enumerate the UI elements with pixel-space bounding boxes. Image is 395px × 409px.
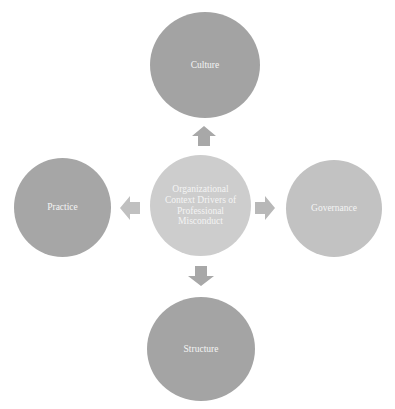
structure-node: Structure — [147, 297, 255, 401]
practice-label: Practice — [47, 202, 78, 213]
center-label: Organizational Context Drivers of Profes… — [160, 184, 241, 228]
practice-node: Practice — [14, 158, 111, 257]
culture-node: Culture — [150, 12, 260, 118]
arrow-up-icon — [192, 126, 216, 146]
arrow-right-icon — [255, 196, 275, 220]
arrow-down-icon — [188, 266, 214, 286]
center-node: Organizational Context Drivers of Profes… — [150, 155, 251, 256]
culture-label: Culture — [191, 60, 220, 71]
structure-label: Structure — [184, 344, 219, 355]
governance-node: Governance — [286, 160, 382, 257]
governance-label: Governance — [311, 203, 357, 214]
arrow-left-icon — [120, 196, 140, 220]
